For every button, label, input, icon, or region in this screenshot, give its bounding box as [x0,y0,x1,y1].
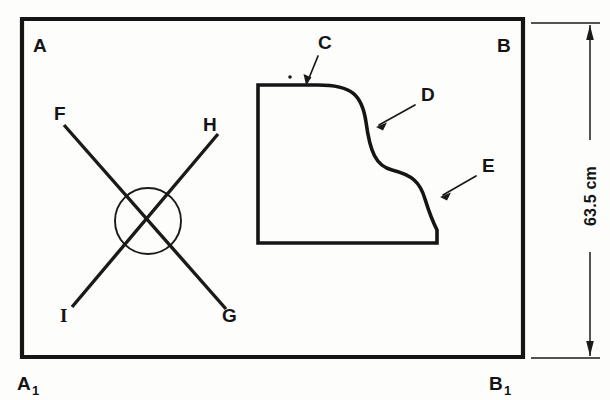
dimension-arrowhead-bottom [586,341,594,356]
corner-label-B1-subscript: 1 [504,383,511,398]
leader-label-D: D [421,84,435,105]
leader-E-line [443,176,476,195]
leader-E: E [440,155,495,201]
corner-label-A1: A [17,373,31,394]
leader-label-C: C [318,32,332,53]
technical-drawing-svg: A B A 1 B 1 F H I G [0,0,610,400]
dimension-arrowhead-top [586,25,594,40]
outer-rectangle [22,19,523,357]
corner-label-B1: B [489,373,503,394]
corner-label-B: B [497,35,511,56]
dimension-value-text: 63.5 cm [582,166,599,226]
leader-D-line [379,105,415,125]
cross-label-F: F [54,103,66,124]
corner-label-A1-subscript: 1 [32,383,39,398]
leader-label-E: E [482,155,495,176]
leader-D: D [376,84,435,131]
frame-corner-labels: A B A 1 B 1 [17,35,511,398]
leader-C: C [288,32,332,85]
ogee-profile-path [258,85,437,243]
vertical-height-dimension: 63.5 cm [531,23,600,358]
cross-label-H: H [203,114,217,135]
ogee-profile-block [258,85,437,243]
cross-label-G: G [222,305,237,326]
outer-rectangle-path [22,19,523,357]
corner-label-A: A [33,35,47,56]
crossed-lines-with-circle [64,125,226,309]
drawing-canvas: A B A 1 B 1 F H I G [0,0,610,400]
leader-C-dot [288,75,292,79]
cross-label-I: I [60,305,67,326]
